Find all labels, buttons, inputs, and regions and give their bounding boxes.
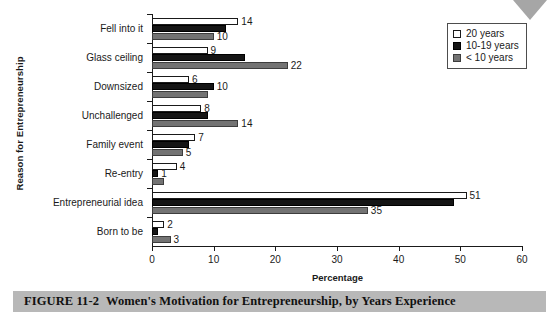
chart-legend: 20 years10-19 years< 10 years: [447, 23, 527, 69]
bar-value-label: 14: [241, 119, 252, 129]
x-axis-tick-label: 20: [270, 254, 281, 265]
bar: [152, 207, 368, 214]
bar-value-label: 7: [198, 133, 204, 143]
x-axis-tick: [275, 246, 276, 251]
x-axis-tick-label: 60: [516, 254, 527, 265]
y-axis-tick: [147, 43, 152, 44]
bar: [152, 199, 454, 206]
y-axis-tick: [147, 159, 152, 160]
legend-item: 10-19 years: [453, 40, 519, 52]
category-group: Unchallenged814: [152, 101, 522, 130]
bar: [152, 192, 467, 199]
x-axis-tick-label: 0: [149, 254, 155, 265]
category-label: Born to be: [97, 227, 143, 237]
bar: [152, 25, 226, 32]
category-label: Glass ceiling: [86, 53, 143, 63]
category-group: Born to be23: [152, 217, 522, 246]
legend-item: 20 years: [453, 28, 519, 40]
y-axis-tick: [147, 130, 152, 131]
figure-caption-band: FIGURE 11-2Women's Motivation for Entrep…: [13, 291, 546, 312]
category-group: Entrepreneurial idea5135: [152, 188, 522, 217]
figure-root: Reason for Entrepreneurship Fell into it…: [0, 0, 559, 323]
legend-item: < 10 years: [453, 52, 519, 64]
bar-value-label: 4: [180, 162, 186, 172]
bar: [152, 228, 158, 235]
y-axis-tick: [147, 72, 152, 73]
bar: [152, 83, 214, 90]
bar: [152, 18, 238, 25]
bar: [152, 33, 214, 40]
y-axis-tick: [147, 217, 152, 218]
bar: [152, 112, 208, 119]
bar: [152, 76, 189, 83]
legend-swatch-icon: [453, 30, 461, 38]
x-axis-tick-label: 10: [208, 254, 219, 265]
legend-swatch-icon: [453, 42, 461, 50]
bar-value-label: 14: [241, 17, 252, 27]
bar: [152, 105, 201, 112]
x-axis-tick: [337, 246, 338, 251]
bar-value-label: 10: [217, 82, 228, 92]
x-axis-tick: [522, 246, 523, 251]
category-group: Re-entry41: [152, 159, 522, 188]
bar: [152, 62, 288, 69]
bar: [152, 54, 245, 61]
legend-label: < 10 years: [466, 53, 513, 63]
x-axis-tick: [460, 246, 461, 251]
x-axis-tick: [399, 246, 400, 251]
legend-swatch-icon: [453, 54, 461, 62]
figure-caption: FIGURE 11-2Women's Motivation for Entrep…: [13, 294, 456, 309]
bar: [152, 134, 195, 141]
legend-label: 20 years: [466, 29, 504, 39]
figure-caption-text: Women's Motivation for Entrepreneurship,…: [106, 294, 456, 308]
category-label: Re-entry: [105, 169, 143, 179]
bar-value-label: 5: [186, 148, 192, 158]
bar: [152, 120, 238, 127]
category-label: Unchallenged: [82, 111, 143, 121]
category-group: Downsized610: [152, 72, 522, 101]
category-label: Fell into it: [100, 24, 143, 34]
category-label: Entrepreneurial idea: [53, 198, 143, 208]
x-axis-tick-label: 40: [393, 254, 404, 265]
category-label: Downsized: [94, 82, 143, 92]
bar: [152, 141, 189, 148]
category-label: Family event: [86, 140, 143, 150]
y-axis-tick: [147, 101, 152, 102]
bar: [152, 91, 208, 98]
bar: [152, 236, 171, 243]
bar-value-label: 3: [174, 235, 180, 245]
bar-value-label: 35: [371, 206, 382, 216]
legend-label: 10-19 years: [466, 41, 519, 51]
bar: [152, 149, 183, 156]
figure-number: FIGURE 11-2: [24, 294, 99, 308]
y-axis-tick: [147, 188, 152, 189]
x-axis-title: Percentage: [152, 272, 523, 283]
y-axis-tick: [147, 14, 152, 15]
bar-value-label: 10: [217, 32, 228, 42]
bar-value-label: 22: [291, 61, 302, 71]
bar: [152, 178, 164, 185]
x-axis-tick: [152, 246, 153, 251]
x-axis-tick: [214, 246, 215, 251]
bar-value-label: 2: [167, 220, 173, 230]
bar: [152, 170, 158, 177]
x-axis-tick-label: 30: [331, 254, 342, 265]
bar: [152, 47, 208, 54]
bar: [152, 221, 164, 228]
category-group: Family event75: [152, 130, 522, 159]
bar-value-label: 51: [470, 191, 481, 201]
x-axis-tick-label: 50: [455, 254, 466, 265]
